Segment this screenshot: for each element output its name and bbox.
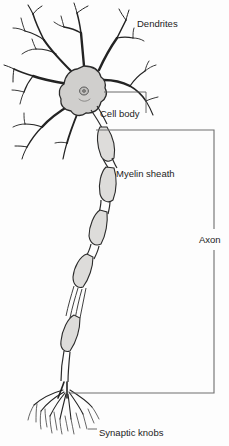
dendrite-branch (146, 101, 153, 115)
dendrite-branch (126, 10, 129, 20)
terminal-twig (40, 411, 41, 429)
node-of-ranvier (112, 158, 117, 168)
axon-shaft (68, 352, 70, 382)
terminal-twig (88, 409, 94, 423)
dendrite-branch (13, 69, 14, 82)
dendrite-branch (133, 28, 134, 38)
dendrite-branch (14, 69, 33, 76)
dendrite-branch (13, 28, 25, 31)
nucleolus (83, 90, 86, 93)
dendrite-branch (22, 49, 36, 54)
terminal-twig (92, 407, 99, 419)
dendrite-branch (146, 97, 158, 101)
myelin-segment (89, 210, 107, 245)
dendrite-branch (64, 27, 81, 33)
myelin-segment (61, 315, 80, 351)
terminal-twig (76, 413, 80, 428)
dendrites-label: Dendrites (137, 18, 178, 29)
dendrite-branch (12, 90, 24, 92)
terminal-twig (45, 409, 47, 427)
terminal-branch (69, 392, 83, 414)
dendrite-branch (67, 112, 78, 143)
myelin-sheath-label: Myelin sheath (116, 168, 175, 179)
dendrite-branch (130, 71, 145, 86)
dendrite-branch (21, 18, 25, 31)
dendrite-branch (24, 113, 25, 124)
terminal-twig (28, 405, 34, 420)
terminal-branch (68, 394, 71, 419)
dendrite-branch (81, 33, 84, 66)
dendrite-branch (27, 127, 42, 147)
dendrite-branch (63, 143, 67, 159)
terminal-twig (60, 419, 62, 434)
axon-shaft (61, 351, 64, 381)
synaptic-knobs-group (28, 382, 99, 434)
dendrite-branch (24, 76, 33, 92)
dendrite-branch (74, 3, 77, 13)
terminal-twig (83, 414, 87, 429)
dendrite-branch (55, 142, 67, 143)
dendrite-branch (61, 16, 64, 27)
terminal-twig (36, 404, 37, 422)
node-of-ranvier (108, 201, 110, 214)
dendrite-branch (22, 147, 27, 159)
dendrite-branch (77, 6, 88, 13)
terminal-twig (71, 419, 74, 434)
dendrite-branch (25, 124, 42, 127)
dendrite-branch (13, 124, 25, 127)
axon-fiber (66, 286, 74, 316)
dendrite-branch (33, 6, 42, 14)
myelin-segment (99, 167, 116, 202)
synaptic-knobs-label: Synaptic knobs (99, 427, 164, 438)
terminal-twig (50, 416, 52, 433)
axon-label: Axon (199, 234, 221, 245)
terminal-branch (41, 392, 64, 411)
axon-fiber (70, 288, 78, 318)
dendrite-branch (33, 76, 68, 84)
myelin-segment (97, 127, 114, 161)
terminal-twig (54, 412, 57, 430)
dendrite-branch (117, 37, 133, 38)
dendrite-branch (4, 65, 14, 69)
dendrite-branch (20, 92, 24, 104)
myelin-segment (73, 254, 93, 287)
axon-group (61, 106, 117, 382)
dendrite-branch (119, 9, 126, 20)
dendrite-branch (117, 20, 126, 38)
dendrite-branch (133, 38, 144, 41)
neuron-diagram: Dendrites Cell body Myelin sheath Axon S… (0, 0, 229, 446)
terminal-twig (65, 416, 68, 431)
dendrite-branch (130, 86, 146, 101)
dendrite-branch (32, 39, 36, 49)
node-of-ranvier (94, 246, 99, 259)
dendrite-branch (99, 38, 117, 70)
neuron-illustration: Dendrites Cell body Myelin sheath Axon S… (0, 0, 229, 446)
dendrite-branch (44, 40, 72, 72)
dendrite-branch (104, 80, 130, 86)
dendrite-branch (77, 13, 81, 33)
dendrite-branch (28, 5, 33, 14)
cell-body-label: Cell body (100, 108, 140, 119)
dendrite-branch (15, 146, 27, 147)
